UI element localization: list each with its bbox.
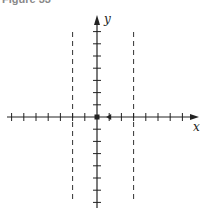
y-axis-label: y bbox=[103, 12, 111, 26]
axes bbox=[7, 15, 199, 208]
origin-point bbox=[95, 115, 100, 120]
x-axis-label: x bbox=[193, 120, 200, 134]
y-arrow-icon bbox=[94, 15, 100, 25]
coordinate-plane: x y bbox=[0, 0, 204, 212]
